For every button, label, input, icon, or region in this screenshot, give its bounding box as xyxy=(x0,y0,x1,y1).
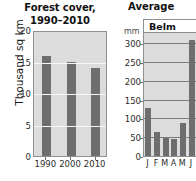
x-tick-label-2010: 2010 xyxy=(83,160,107,169)
gridline xyxy=(34,94,106,95)
y-tick-label: 0 xyxy=(5,153,31,162)
x-tick-mark xyxy=(70,157,71,160)
bar-month-3 xyxy=(171,139,177,156)
y-tick-label: 300 xyxy=(114,40,141,49)
x-tick-mark xyxy=(45,157,46,160)
y-tick-label: 100 xyxy=(114,115,141,124)
y-tick-mark xyxy=(140,63,143,64)
x-tick-label-month-5: J xyxy=(186,159,196,168)
bar-2010 xyxy=(91,68,100,156)
x-tick-label-2000: 2000 xyxy=(58,160,82,169)
y-tick-label: 250 xyxy=(114,59,141,68)
y-tick-mark xyxy=(140,101,143,102)
y-tick-mark xyxy=(140,157,143,158)
y-tick-mark xyxy=(140,44,143,45)
gridline xyxy=(34,31,106,32)
bar-month-4 xyxy=(180,123,186,156)
y-tick-label: 50 xyxy=(114,134,141,143)
y-axis-ticks-forest-cover: 05101520 xyxy=(0,31,31,157)
y-tick-mark xyxy=(140,138,143,139)
bar-month-0 xyxy=(145,108,151,156)
y-tick-mark xyxy=(140,119,143,120)
y-tick-label: 0 xyxy=(114,153,141,162)
bar-2000 xyxy=(67,62,76,156)
chart-forest-cover: Forest cover, 1990–2010 Thousand sq km 0… xyxy=(0,0,112,181)
bar-month-5 xyxy=(189,40,195,156)
y-tick-label: 200 xyxy=(114,78,141,87)
y-tick-label: 15 xyxy=(5,59,31,68)
chart-average-precipitation: Average Belm mm 050100150200250300 JFMAM… xyxy=(112,0,196,181)
x-tick-label-1990: 1990 xyxy=(33,160,57,169)
bar-month-1 xyxy=(154,132,160,156)
plot-area-forest-cover xyxy=(33,31,107,157)
gridline xyxy=(34,126,106,127)
figure-two-charts: Forest cover, 1990–2010 Thousand sq km 0… xyxy=(0,0,196,181)
y-tick-label: 150 xyxy=(114,97,141,106)
panel-label-box: Belm xyxy=(143,19,196,33)
plot-area-average-precipitation xyxy=(143,33,196,157)
bar-1990 xyxy=(42,56,51,156)
y-tick-mark xyxy=(140,82,143,83)
y-tick-label: 10 xyxy=(5,90,31,99)
y-tick-label: 20 xyxy=(5,27,31,36)
x-axis-ticks-forest-cover: 199020002010 xyxy=(33,160,107,174)
gridline xyxy=(34,63,106,64)
x-tick-mark xyxy=(95,157,96,160)
x-axis-ticks-average-precipitation: JFMAMJ xyxy=(143,159,196,172)
y-tick-label: 5 xyxy=(5,122,31,131)
panel-label-text: Belm xyxy=(149,21,176,33)
chart-title-average-precipitation: Average xyxy=(128,1,174,13)
y-axis-ticks-average-precipitation: 050100150200250300 xyxy=(112,33,141,157)
bar-month-2 xyxy=(163,138,169,156)
